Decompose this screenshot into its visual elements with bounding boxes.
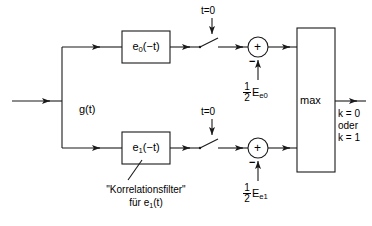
- upper-switch-pivot: [199, 46, 201, 48]
- upper-switch-blade: [200, 38, 218, 47]
- output-oder: oder: [338, 120, 360, 132]
- lower-sum-minus-sign: −: [249, 156, 255, 168]
- upper-sum-minus-sign: −: [249, 55, 255, 67]
- figure-canvas: g(t) e0(−t) e1(−t) t=0 t=0 + + − − 1 2 E…: [0, 0, 372, 226]
- lower-switch-pivot: [199, 147, 201, 149]
- upper-filter-label: e0(−t): [122, 40, 170, 54]
- upper-switch-label: t=0: [201, 6, 215, 17]
- annotation-line-1: "Korrelationsfilter": [86, 184, 206, 195]
- upper-sum-plus: +: [254, 40, 261, 54]
- lower-energy-label: 1 2 Ee1: [243, 183, 268, 204]
- max-block-label: max: [300, 95, 321, 107]
- input-label: g(t): [79, 104, 96, 116]
- annotation-line-2: für e1(t): [86, 197, 206, 210]
- lower-switch-blade: [200, 139, 218, 148]
- lower-filter-label: e1(−t): [122, 141, 170, 155]
- output-k0: k = 0: [338, 108, 360, 120]
- lower-sum-plus: +: [254, 141, 261, 155]
- max-output-label: k = 0 oder k = 1: [338, 108, 360, 144]
- upper-energy-label: 1 2 Ee0: [243, 82, 268, 103]
- annotation-leader: [128, 160, 142, 180]
- output-k1: k = 1: [338, 132, 360, 144]
- lower-switch-label: t=0: [201, 107, 215, 118]
